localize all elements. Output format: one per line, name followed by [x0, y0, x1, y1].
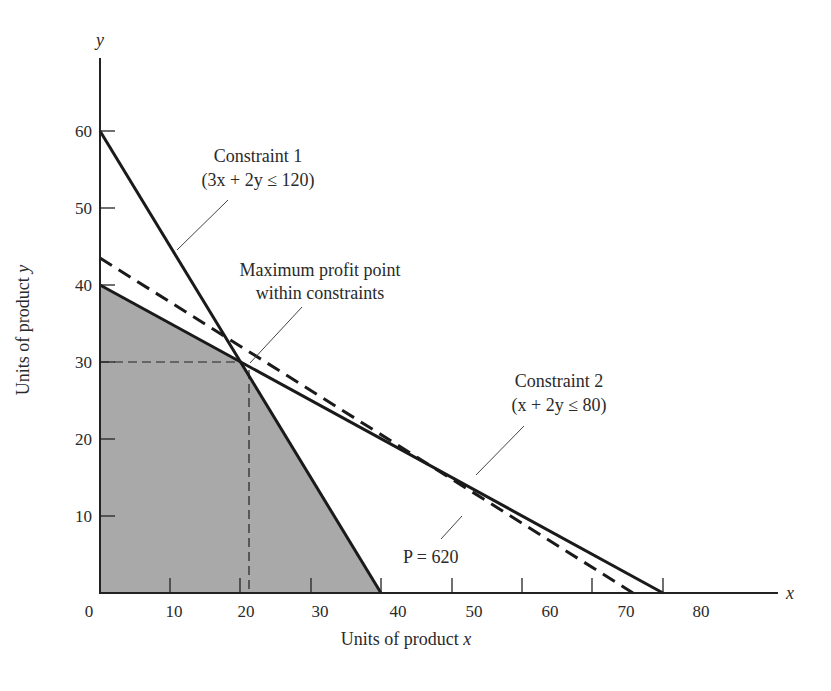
svg-text:40: 40: [75, 276, 92, 295]
svg-text:(3x + 2y ≤ 120): (3x + 2y ≤ 120): [201, 170, 314, 191]
constraint-2-leader: [476, 426, 524, 475]
chart-canvas: y x 10 20 30 40 50 60 0 10 20 30 40 50 6…: [0, 0, 831, 691]
p-label-leader: [441, 516, 462, 539]
svg-text:30: 30: [75, 353, 92, 372]
constraint-2-annotation: Constraint 2 (x + 2y ≤ 80): [511, 371, 606, 416]
y-tick-labels: 10 20 30 40 50 60: [75, 122, 92, 526]
svg-text:Maximum profit point: Maximum profit point: [240, 260, 401, 280]
y-axis-title: Units of product y: [13, 265, 33, 395]
svg-text:50: 50: [75, 199, 92, 218]
svg-text:Constraint 2: Constraint 2: [515, 371, 604, 391]
svg-text:10: 10: [75, 507, 92, 526]
constraint-1-annotation: Constraint 1 (3x + 2y ≤ 120): [201, 146, 314, 191]
svg-text:Constraint 1: Constraint 1: [214, 146, 303, 166]
x-axis-symbol: x: [785, 583, 794, 603]
profit-value-label: P = 620: [403, 547, 459, 567]
svg-text:within constraints: within constraints: [256, 283, 385, 303]
svg-text:0: 0: [85, 602, 94, 621]
svg-text:(x + 2y ≤ 80): (x + 2y ≤ 80): [511, 395, 606, 416]
svg-text:50: 50: [466, 602, 483, 621]
constraint-1-leader: [177, 200, 228, 250]
svg-text:60: 60: [542, 602, 559, 621]
svg-text:10: 10: [166, 602, 183, 621]
svg-text:20: 20: [75, 430, 92, 449]
svg-text:80: 80: [693, 602, 710, 621]
x-tick-labels: 0 10 20 30 40 50 60 70 80: [85, 602, 710, 621]
max-profit-leader: [250, 307, 302, 363]
max-profit-annotation: Maximum profit point within constraints: [240, 260, 401, 303]
feasible-region: [100, 285, 381, 593]
svg-text:40: 40: [390, 602, 407, 621]
svg-text:30: 30: [312, 602, 329, 621]
svg-text:70: 70: [618, 602, 635, 621]
y-axis-symbol: y: [94, 30, 104, 50]
svg-text:20: 20: [238, 602, 255, 621]
svg-text:60: 60: [75, 122, 92, 141]
x-axis-title: Units of product x: [341, 629, 471, 649]
